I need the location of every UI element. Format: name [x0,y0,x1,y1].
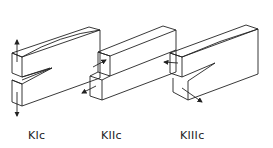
mode-1-specimen [12,27,100,116]
fracture-modes-diagram [0,0,273,148]
mode-2-label: KIIc [101,129,122,142]
arrow-tear-right-icon [182,88,202,102]
arrow-shear-bottom-icon [82,86,96,93]
mode-3-label: KIIIc [180,129,205,142]
mode-2-specimen [82,26,176,100]
mode-3-specimen [164,25,258,102]
arrow-shear-top-icon [93,60,106,67]
mode-1-label: KIc [28,129,45,142]
